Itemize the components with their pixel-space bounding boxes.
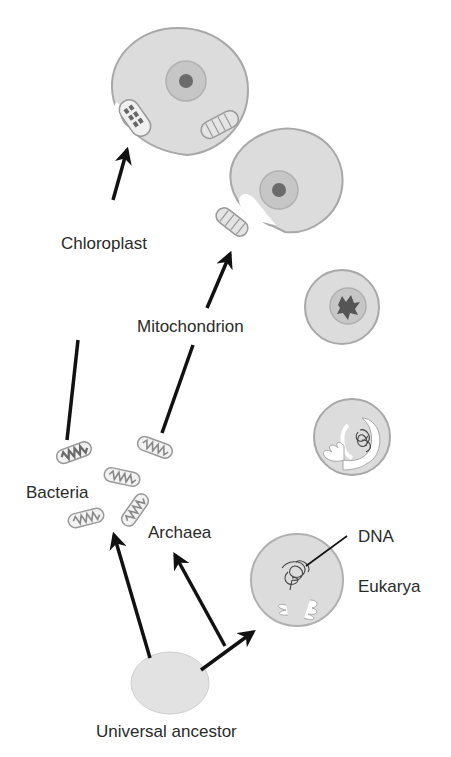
bacterium-icon: [136, 435, 175, 460]
bacterium-icon: [119, 491, 151, 529]
bacterium-icon: [55, 440, 94, 465]
bacterium-icon: [67, 507, 105, 529]
mitochondrion-arrow-lower: [162, 345, 193, 433]
ancestor-to-archaea-arrow: [175, 555, 225, 646]
cell-with-chloroplast: [112, 28, 248, 155]
nucleolus-icon: [179, 74, 193, 88]
chloroplast-arrow-lower: [67, 340, 78, 440]
cell-with-nucleus: [305, 270, 379, 344]
chloroplast-arrow-upper: [113, 150, 127, 200]
universal-ancestor-cell: [131, 652, 209, 714]
nucleolus-icon: [272, 183, 286, 197]
label-mitochondrion: Mitochondrion: [137, 318, 244, 335]
diagram-canvas: [0, 0, 451, 757]
bacterium-icon: [103, 466, 141, 487]
label-universal-ancestor: Universal ancestor: [96, 723, 237, 740]
bacteria-cells: [55, 435, 175, 530]
mitochondrion-arrow-upper: [207, 254, 230, 308]
label-bacteria: Bacteria: [26, 484, 88, 501]
ancestor-to-bacteria-arrow: [114, 535, 150, 658]
label-dna: DNA: [358, 528, 394, 545]
label-eukarya: Eukarya: [358, 578, 420, 595]
endosymbiosis-diagram: Chloroplast Mitochondrion Bacteria Archa…: [0, 0, 451, 757]
ancestor-to-eukarya-arrow: [201, 632, 253, 670]
eukarya-cell: [251, 534, 343, 626]
label-archaea: Archaea: [148, 524, 211, 541]
cell-with-mitochondrion: [213, 129, 343, 240]
label-chloroplast: Chloroplast: [61, 235, 147, 252]
cell-with-infolding-membrane: [314, 399, 390, 475]
